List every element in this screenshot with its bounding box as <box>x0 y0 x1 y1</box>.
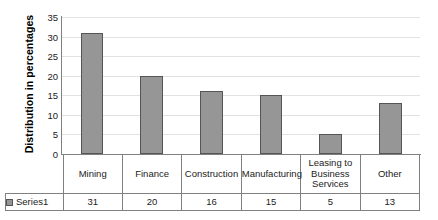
category-cell: Manufacturing <box>241 155 300 194</box>
bar-finance[interactable] <box>140 76 163 154</box>
bar-chart-figure: Distribution in percentages 35 30 25 20 … <box>0 0 438 220</box>
bar-cell <box>360 17 420 154</box>
category-cell: Other <box>360 155 419 194</box>
category-cell: Leasing toBusinessServices <box>301 155 360 194</box>
legend-series-label: Series1 <box>16 197 48 208</box>
legend-cell[interactable]: Series1 <box>6 194 64 211</box>
square-swatch-icon <box>6 199 13 206</box>
y-tick-20: 20 <box>36 72 58 81</box>
y-tick-35: 35 <box>36 13 58 22</box>
table-row-categories: MiningFinanceConstructionManufacturingLe… <box>6 155 420 194</box>
bar-construction[interactable] <box>200 91 223 154</box>
bar-manufacturing[interactable] <box>260 95 283 154</box>
value-cell: 16 <box>182 194 241 211</box>
bar-series-group <box>62 17 420 154</box>
value-cell: 20 <box>122 194 181 211</box>
bar-cell <box>122 17 182 154</box>
value-cell: 15 <box>241 194 300 211</box>
bar-other[interactable] <box>379 103 402 154</box>
value-cell: 5 <box>301 194 360 211</box>
data-table: MiningFinanceConstructionManufacturingLe… <box>5 154 420 211</box>
bar-cell <box>62 17 122 154</box>
bar-mining[interactable] <box>81 33 104 154</box>
bar-cell <box>181 17 241 154</box>
y-tick-30: 30 <box>36 33 58 42</box>
category-cell: Mining <box>63 155 122 194</box>
category-cell: Finance <box>122 155 181 194</box>
value-cell: 31 <box>63 194 122 211</box>
y-tick-10: 10 <box>36 111 58 120</box>
category-cell: Construction <box>182 155 241 194</box>
table-row-values: Series1 31201615513 <box>6 194 420 211</box>
y-tick-25: 25 <box>36 52 58 61</box>
y-tick-5: 5 <box>36 130 58 139</box>
y-tick-15: 15 <box>36 91 58 100</box>
bar-cell <box>241 17 301 154</box>
bar-leasing-to-business-services[interactable] <box>319 134 342 154</box>
value-cell: 13 <box>360 194 419 211</box>
bar-cell <box>301 17 361 154</box>
legend-spacer-cell <box>6 155 64 194</box>
